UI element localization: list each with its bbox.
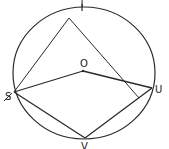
segment-S-O [14,71,83,92]
label-T: T [78,0,86,9]
label-S: S [5,91,11,102]
label-U: U [155,84,162,95]
segment-S-apex [14,18,69,92]
circle [13,7,155,139]
label-O: O [80,58,88,69]
point-O [82,70,84,72]
geometry-diagram: T O S U V [0,0,169,149]
label-V: V [81,141,88,149]
